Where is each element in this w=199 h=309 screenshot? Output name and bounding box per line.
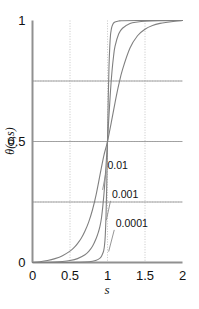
x-axis-title: s [104,282,109,297]
x-tick-label: 1.5 [136,268,154,283]
curve-label-0.001: 0.001 [112,188,138,200]
x-tick-label: 0 [29,268,36,283]
curve-label-0.0001: 0.0001 [116,217,148,229]
curve-label-0.01: 0.01 [108,159,129,171]
y-tick-label: 1 [18,13,25,28]
x-tick-label: 1 [104,268,111,283]
sigmoid-transition-chart: 0.010.0010.0001 00.511.52 00.51 s θ(σ,s) [0,0,199,309]
y-tick-label: 0 [18,255,25,270]
y-axis-title: θ(σ,s) [3,127,17,154]
x-tick-label: 0.5 [61,268,79,283]
x-tick-label: 2 [179,268,186,283]
figure-container: 0.010.0010.0001 00.511.52 00.51 s θ(σ,s) [0,0,199,309]
